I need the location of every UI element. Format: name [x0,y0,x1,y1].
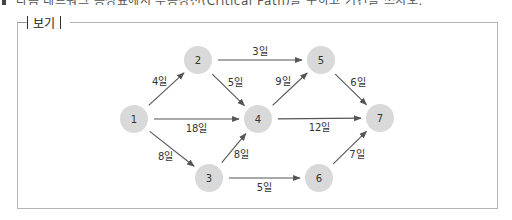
edge-label-2-4: 5일 [228,77,243,88]
node-label-7: 7 [377,113,383,124]
edge-label-6-7: 7일 [349,149,364,160]
edge-label-1-4: 18일 [186,123,208,134]
node-label-1: 1 [131,114,137,125]
node-label-5: 5 [318,55,324,66]
node-label-6: 6 [316,173,322,184]
edge-label-3-4: 8일 [234,149,249,160]
edge-label-4-5: 9일 [275,76,290,87]
edge-label-5-7: 6일 [350,77,365,88]
edge-label-1-2: 4일 [152,76,167,87]
node-label-4: 4 [255,114,261,125]
node-label-3: 3 [206,173,212,184]
edge-label-4-7: 12일 [309,122,331,133]
edge-label-2-5: 3일 [252,46,267,57]
edge-label-1-3: 8일 [158,151,173,162]
network-diagram: 4일18일8일3일5일8일5일9일12일6일7일 1234567 [0,0,512,220]
edge-label-3-6: 5일 [257,182,272,193]
edge-4-7 [278,118,361,119]
node-label-2: 2 [195,55,201,66]
